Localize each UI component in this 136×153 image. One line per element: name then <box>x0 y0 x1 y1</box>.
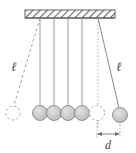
ball-2 <box>47 106 62 121</box>
label-length-right: ℓ <box>116 59 122 74</box>
string-swung-left-dashed <box>14 18 41 107</box>
ball-swung-right <box>113 108 128 123</box>
label-length-left: ℓ <box>11 59 17 74</box>
ball-swung-left-dashed <box>6 106 20 120</box>
ball-3 <box>61 106 76 121</box>
ball-phantom-rest-position <box>90 106 105 121</box>
newtons-cradle-figure: ℓ ℓ d <box>0 0 136 153</box>
dimension-arrowhead-right <box>115 132 120 136</box>
hatched-ceiling <box>25 10 115 18</box>
dimension-d <box>97 122 120 138</box>
label-separation-d: d <box>105 138 112 152</box>
cradle-diagram-svg: ℓ ℓ d <box>0 0 136 153</box>
ball-4 <box>75 106 90 121</box>
pendulum-balls <box>6 106 128 123</box>
dimension-arrowhead-left <box>97 132 102 136</box>
ball-1 <box>33 106 48 121</box>
